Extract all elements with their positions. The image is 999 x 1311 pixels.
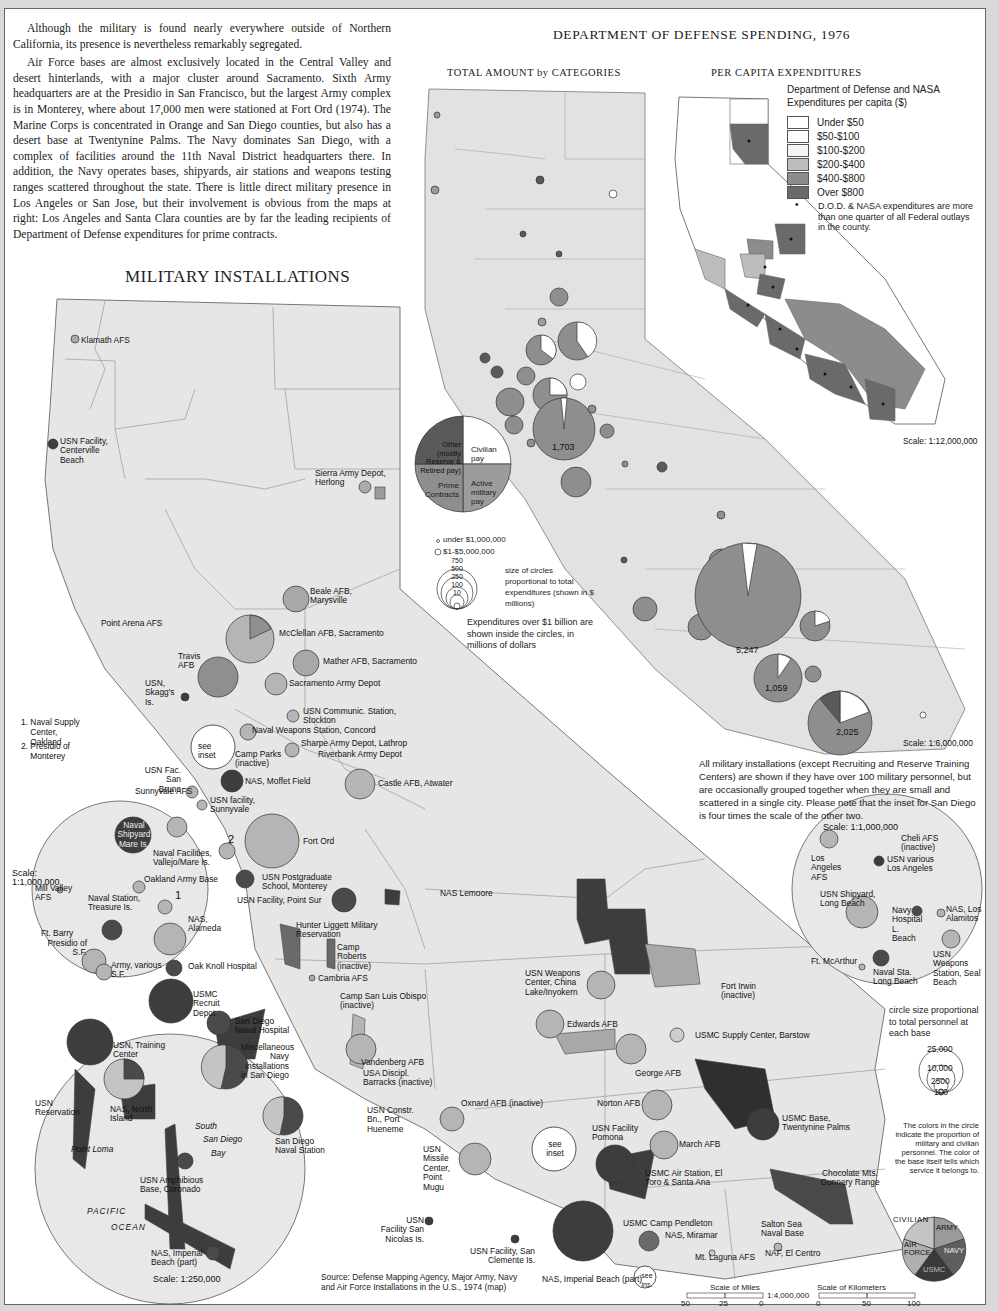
label-usa-discipl: USA Discipl. Barracks (inactive) xyxy=(363,1069,443,1088)
label-camp-roberts: Camp Roberts (inactive) xyxy=(337,943,387,971)
label-cambria: Cambria AFS xyxy=(318,974,368,983)
colors-note: The colors in the circle indicate the pr… xyxy=(889,1121,979,1175)
label-moffett: NAS, Moffet Field xyxy=(245,777,310,786)
label-miramar: NAS, Miramar xyxy=(665,1231,718,1240)
scale-miles-25: 25 xyxy=(719,1299,728,1308)
billion-note: Expenditures over $1 billion are shown i… xyxy=(467,617,597,652)
atlas-page: Although the military is found nearly ev… xyxy=(4,8,986,1305)
label-fort-irwin: Fort Irwin (inactive) xyxy=(721,982,769,1001)
sd-label-training-center: USN, Training Center xyxy=(113,1041,168,1060)
label-centerville: USN Facility, Centerville Beach xyxy=(60,437,120,465)
legend-bin-200-400: $200-$400 xyxy=(787,157,865,171)
label-usn-sunnyvale: USN facility, Sunnyvale xyxy=(210,796,290,815)
scale-miles-label: Scale of Miles xyxy=(710,1283,760,1292)
per-capita-legend: Under $50 $50-$100 $100-$200 $200-$400 $… xyxy=(787,115,865,199)
la-label-shipyard: USN Shipyard, Long Beach xyxy=(820,890,880,909)
legend-bin-under-50: Under $50 xyxy=(787,115,865,129)
label-pendleton: USMC Camp Pendleton xyxy=(623,1219,712,1228)
see-inset-label-2: see inset xyxy=(540,1140,570,1159)
label-san-clemente: USN Facility, San Clemente Is. xyxy=(465,1247,535,1266)
label-postgrad: USN Postgraduate School, Monterey xyxy=(262,873,346,892)
service-air-force: AIR FORCE xyxy=(904,1241,930,1257)
sf-label-oakland-army: Oakland Army Base xyxy=(144,875,218,884)
numbered-note-2: 2. Presidio of Monterey xyxy=(21,741,90,761)
label-stockton: USN Communic. Station, Stockton xyxy=(303,707,403,726)
source-note: Source: Defense Mapping Agency, Major Ar… xyxy=(321,1272,521,1292)
sd-label-amphibious: USN Amphibious Base, Coronado xyxy=(140,1176,206,1195)
label-point-arena: Point Arena AFS xyxy=(101,619,162,628)
circle-size-100: 100 xyxy=(934,1088,948,1097)
label-oxnard: Oxnard AFB (inactive) xyxy=(461,1099,543,1108)
sd-label-ocean: OCEAN xyxy=(111,1223,146,1232)
la-label-la-afs: Los Angeles AFS xyxy=(811,854,853,882)
la-label-seal-beach: USN Weapons Station, Seal Beach xyxy=(933,950,983,988)
sd-label-point-loma: Point Loma xyxy=(71,1145,113,1154)
circle-size-note: circle size proportional to total person… xyxy=(889,1005,985,1040)
label-nas-lemoore: NAS Lemoore xyxy=(440,889,493,898)
service-navy: NAVY xyxy=(944,1246,964,1255)
legend-under-1m: under $1,000,000 xyxy=(443,535,506,544)
per-capita-scale: Scale: 1:12,000,000 xyxy=(903,437,978,446)
dot-note: D.O.D. & NASA expenditures are more than… xyxy=(818,201,978,233)
la-label-cheli: Cheli AFS (inactive) xyxy=(901,834,951,853)
sf-label-mill-valley: Mill Valley AFS xyxy=(35,884,77,903)
label-salton-sea: Salton Sea Naval Base xyxy=(761,1220,805,1239)
label-mt-laguna: Mt. Laguna AFS xyxy=(695,1253,755,1262)
circle-size-2500: 2500 xyxy=(931,1077,950,1086)
value-santa-clara: 1,703 xyxy=(552,443,575,452)
service-army: ARMY xyxy=(936,1223,958,1232)
label-point-sur: USN Facility, Point Sur xyxy=(237,896,322,905)
spending-scale: Scale: 1:6,000,000 xyxy=(903,739,973,748)
value-san-diego: 2,025 xyxy=(836,728,859,737)
label-num-2: 2 xyxy=(228,835,234,844)
label-sunnyvale-afs: Sunnyvale AFS xyxy=(135,787,192,796)
size-legend-values: 750 500 250 100 10 xyxy=(446,557,468,597)
sf-label-treasure-is: Naval Station, Treasure Is. xyxy=(88,894,142,913)
sd-label-san-diego: San Diego xyxy=(203,1135,242,1144)
value-los-angeles: 5,247 xyxy=(736,646,759,655)
label-george: George AFB xyxy=(635,1069,681,1078)
label-camp-parks: Camp Parks (inactive) xyxy=(235,750,289,769)
label-edwards: Edwards AFB xyxy=(567,1020,618,1029)
label-sharpe: Sharpe Army Depot, Lathrop xyxy=(301,739,407,748)
per-capita-legend-title: Department of Defense and NASA Expenditu… xyxy=(787,83,983,109)
legend-bin-100-200: $100-$200 xyxy=(787,143,865,157)
label-riverbank: Riverbank Army Depot xyxy=(318,750,402,759)
sd-inset-scale: Scale: 1:250,000 xyxy=(153,1275,221,1284)
circle-size-10000: 10,000 xyxy=(927,1064,953,1073)
sd-label-usn-reservation: USN Reservation xyxy=(35,1099,79,1118)
sd-label-misc-navy: Miscellaneous Navy installations in San … xyxy=(241,1043,289,1081)
legend-other: Other (mostly Reserve & Retired pay) xyxy=(417,441,461,475)
scale-km-0: 0 xyxy=(816,1299,820,1308)
service-civilian: CIVILIAN xyxy=(893,1215,929,1224)
label-sacramento-army: Sacramento Army Depot xyxy=(289,679,380,688)
sf-label-alameda: NAS, Alameda xyxy=(188,915,218,934)
legend-civilian: Civilian pay xyxy=(471,445,511,463)
label-travis: Travis AFB xyxy=(178,652,204,671)
sd-label-north-island: NAS, North Island xyxy=(110,1105,160,1124)
legend-bin-over-800: Over $800 xyxy=(787,185,865,199)
sd-label-imperial-beach: NAS, Imperial Beach (part) xyxy=(151,1249,209,1268)
scale-km-50: 50 xyxy=(862,1299,871,1308)
sf-label-presidio: Presidio of S.F. xyxy=(47,939,87,958)
scale-ratio: 1:4,000,000 xyxy=(767,1291,809,1300)
legend-bin-50-100: $50-$100 xyxy=(787,129,865,143)
dot-marker-icon: • xyxy=(795,199,799,210)
sf-label-num-1: 1 xyxy=(175,891,181,900)
sf-label-vallejo: Naval Facilities, Vallejo/Mare Is. xyxy=(153,849,228,868)
see-ins-label: see ins. xyxy=(637,1271,657,1289)
la-label-naval-sta: Naval Sta. Long Beach xyxy=(873,968,923,987)
label-mather: Mather AFB, Sacramento xyxy=(323,657,417,666)
label-pomona: USN Facility Pomona xyxy=(592,1124,642,1143)
label-march: March AFB xyxy=(679,1140,720,1149)
label-san-nicolas: USN Facility San Nicolas Is. xyxy=(380,1216,424,1244)
label-klamath: Klamath AFS xyxy=(81,336,130,345)
la-label-navy-hospital: Navy Hospital L. Beach xyxy=(892,906,922,944)
label-fort-ord: Fort Ord xyxy=(303,837,334,846)
label-mugu: USN Missile Center, Point Mugu xyxy=(423,1145,463,1192)
sd-label-pacific: PACIFIC xyxy=(87,1207,126,1216)
la-label-los-alamitos: NAS, Los Alamitos xyxy=(946,905,986,924)
label-beale: Beale AFB, Marysville xyxy=(310,587,360,606)
label-concord: Naval Weapons Station, Concord xyxy=(252,726,376,735)
sd-label-naval-hospital: San Diego Naval Hospital xyxy=(235,1017,295,1036)
